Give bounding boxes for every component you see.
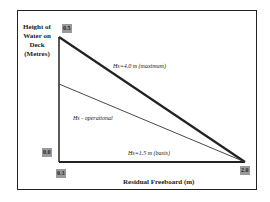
x-tick-right: 2.0 <box>240 166 250 175</box>
x-axis-label: Residual Freeboard (m) <box>123 178 194 186</box>
y-axis-label: Height of Water on Deck (Metres) <box>18 23 56 59</box>
y-tick-bottom: 0.0 <box>42 148 52 157</box>
ylabel-line: (Metres) <box>18 50 56 59</box>
series-maximum-line <box>59 37 245 162</box>
ylabel-line: Water on <box>18 32 56 41</box>
x-tick-left: 0.3 <box>56 169 66 178</box>
ylabel-line: Deck <box>18 41 56 50</box>
annotation-maximum: Hs=4.0 m (maximum) <box>113 63 166 69</box>
annotation-operational: Hs - operational <box>73 115 113 121</box>
annotation-basis: Hs=1.5 m (basis) <box>128 150 170 156</box>
y-tick-top: 0.5 <box>62 24 72 33</box>
ylabel-line: Height of <box>18 23 56 32</box>
